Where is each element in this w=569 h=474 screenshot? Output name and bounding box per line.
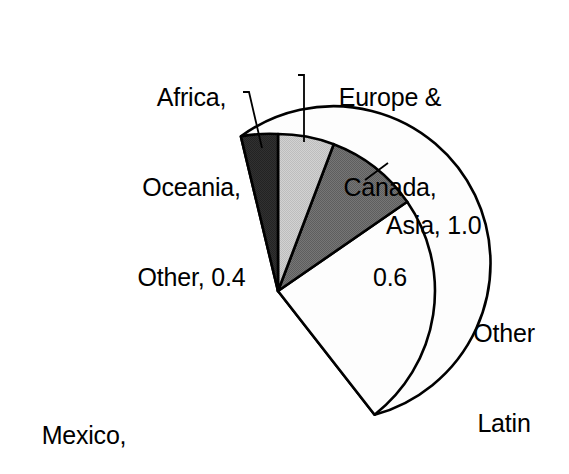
pie-label-asia-line-1: Asia, 1.0 — [386, 210, 556, 240]
pie-label-mexico: Mexico, 5.9 — [8, 360, 160, 474]
pie-label-other-latin-america: Other Latin America, 2.5 — [440, 258, 568, 474]
pie-label-europe-line-1: Europe & — [300, 82, 480, 112]
pie-label-africa-line-1: Africa, — [84, 82, 299, 112]
pie-chart: Africa, Oceania, Other, 0.4 Europe & Can… — [0, 0, 569, 474]
pie-label-otherlatin-line-2: Latin — [440, 408, 568, 438]
pie-label-africa-line-3: Other, 0.4 — [84, 262, 299, 292]
pie-label-africa-line-2: Oceania, — [84, 172, 299, 202]
pie-label-africa-oceania-other: Africa, Oceania, Other, 0.4 — [84, 22, 299, 352]
pie-label-mexico-line-1: Mexico, — [8, 420, 160, 450]
pie-label-otherlatin-line-1: Other — [440, 318, 568, 348]
